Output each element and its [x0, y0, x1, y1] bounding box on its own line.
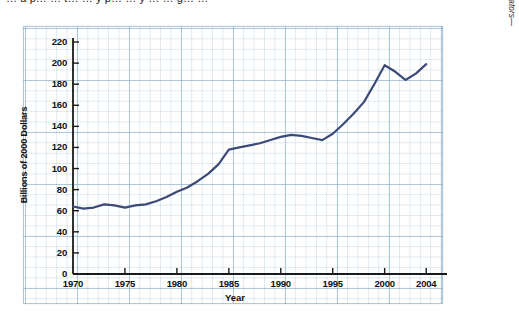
y-axis-title: Billions of 2000 Dollars — [19, 95, 29, 215]
y-axis-tick-label: 140 — [33, 120, 67, 131]
x-axis-tick-label: 2000 — [365, 278, 405, 289]
y-axis-tick-label: 120 — [33, 141, 67, 152]
x-axis-tick-label: 1985 — [209, 278, 249, 289]
line-chart-plot — [0, 0, 519, 325]
x-axis-title: Year — [190, 292, 280, 303]
x-axis-tick-label: 1995 — [313, 278, 353, 289]
x-axis-tick-label: 1980 — [157, 278, 197, 289]
y-axis-tick-label: 20 — [33, 247, 67, 258]
y-axis-tick-label: 40 — [33, 226, 67, 237]
y-axis-tick-label: 180 — [33, 78, 67, 89]
source-publication-title: Science and Engineering Indicators—2006 — [496, 0, 517, 26]
x-axis-tick-label: 1990 — [261, 278, 301, 289]
y-axis-tick-label: 60 — [33, 205, 67, 216]
y-axis-tick-label: 80 — [33, 184, 67, 195]
x-axis-tick-label: 1975 — [105, 278, 145, 289]
source-note: SOURCE: National Science Board, Science … — [467, 0, 517, 30]
y-axis-tick-label: 160 — [33, 99, 67, 110]
x-axis-tick-label: 2004 — [406, 278, 446, 289]
x-axis-tick-label: 1970 — [53, 278, 93, 289]
y-axis-tick-label: 220 — [33, 36, 67, 47]
data-series-line — [73, 64, 426, 208]
y-axis-tick-label: 100 — [33, 163, 67, 174]
y-axis-tick-label: 200 — [33, 57, 67, 68]
